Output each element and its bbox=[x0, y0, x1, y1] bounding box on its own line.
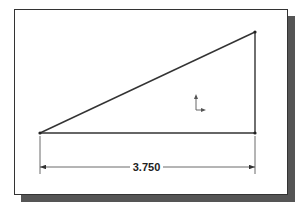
dimension-label[interactable]: 3.750 bbox=[133, 161, 161, 173]
origin-icon bbox=[194, 94, 206, 112]
vertex-bottom-right[interactable] bbox=[253, 131, 256, 134]
vertex-top-right[interactable] bbox=[253, 30, 256, 33]
sketch-canvas: 3.750 bbox=[0, 0, 307, 213]
vertex-left[interactable] bbox=[38, 131, 41, 134]
hypotenuse-line[interactable] bbox=[40, 32, 255, 133]
